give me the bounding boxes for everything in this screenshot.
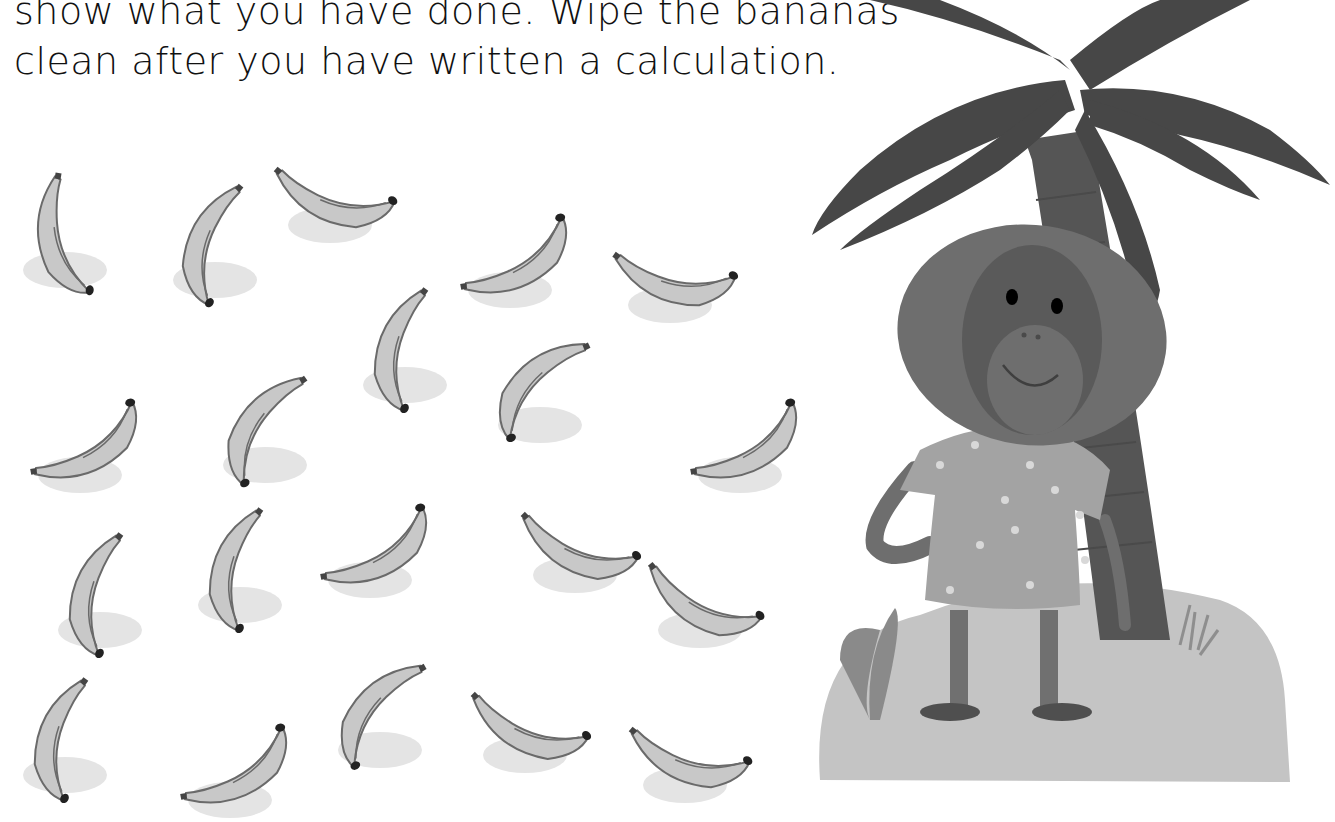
instructions-line-1: show what you have done. Wipe the banana… xyxy=(14,0,900,36)
instructions-line-2: clean after you have written a calculati… xyxy=(14,36,900,86)
banana-icon[interactable] xyxy=(180,505,310,635)
banana-icon[interactable] xyxy=(5,170,135,300)
banana-icon[interactable] xyxy=(640,530,770,660)
banana-icon[interactable] xyxy=(155,180,285,310)
banana-icon[interactable] xyxy=(625,685,755,815)
banana-icon[interactable] xyxy=(310,480,440,610)
banana-icon[interactable] xyxy=(20,375,150,505)
banana-icon[interactable] xyxy=(515,475,645,605)
instructions-text: show what you have done. Wipe the banana… xyxy=(14,0,900,86)
palm-tree-monkey-icon xyxy=(800,0,1335,807)
banana-icon[interactable] xyxy=(610,205,740,335)
monkey-palm-illustration xyxy=(800,0,1335,807)
banana-icon[interactable] xyxy=(345,285,475,415)
banana-field xyxy=(0,110,840,807)
banana-icon[interactable] xyxy=(40,530,170,660)
banana-icon[interactable] xyxy=(680,375,810,505)
banana-icon[interactable] xyxy=(480,325,610,455)
banana-icon[interactable] xyxy=(5,675,135,805)
banana-icon[interactable] xyxy=(270,125,400,255)
banana-icon[interactable] xyxy=(320,650,450,780)
banana-icon[interactable] xyxy=(205,365,335,495)
banana-icon[interactable] xyxy=(465,655,595,785)
banana-icon[interactable] xyxy=(170,700,300,822)
